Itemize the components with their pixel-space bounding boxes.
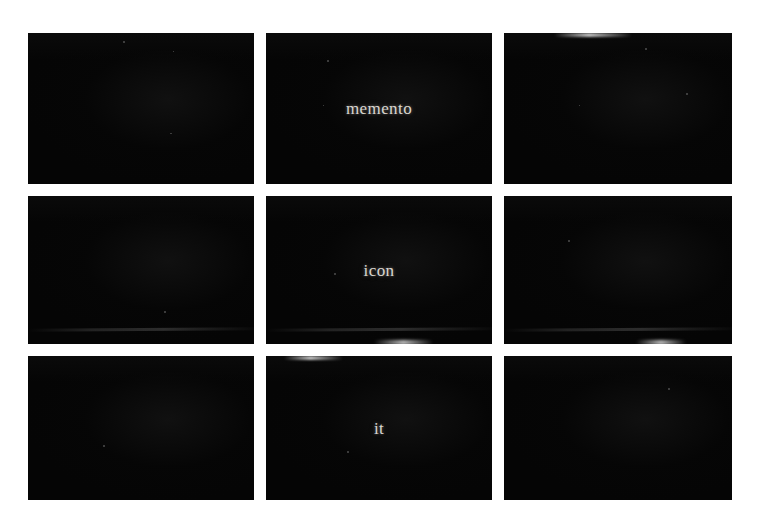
dust-speck <box>327 60 329 62</box>
film-frame[interactable]: it <box>266 356 492 500</box>
dust-speck <box>170 133 172 134</box>
dust-speck <box>323 105 324 106</box>
dust-speck <box>668 388 670 390</box>
edge-light-leak <box>284 356 343 360</box>
edge-light-leak <box>374 340 433 344</box>
dust-speck <box>347 451 349 453</box>
dust-speck <box>173 51 174 52</box>
frame-subtitle: memento <box>346 100 412 117</box>
film-frame[interactable] <box>504 196 732 344</box>
frame-subtitle: it <box>374 420 384 437</box>
edge-light-leak <box>636 340 686 344</box>
film-frame[interactable] <box>504 33 732 184</box>
film-frame[interactable]: icon <box>266 196 492 344</box>
dust-speck <box>579 105 580 106</box>
dust-speck <box>164 311 166 313</box>
film-frame[interactable] <box>28 33 254 184</box>
frame-subtitle: icon <box>364 262 395 279</box>
dust-speck <box>686 93 688 95</box>
film-frame[interactable] <box>28 356 254 500</box>
film-frame[interactable]: memento <box>266 33 492 184</box>
dust-speck <box>645 48 647 50</box>
dust-speck <box>334 273 336 275</box>
film-frame[interactable] <box>28 196 254 344</box>
dust-speck <box>123 41 125 43</box>
dust-speck <box>103 445 105 447</box>
edge-light-leak <box>554 33 632 37</box>
film-frame-grid: memento icon it <box>28 33 730 500</box>
film-frame[interactable] <box>504 356 732 500</box>
dust-speck <box>568 240 570 242</box>
